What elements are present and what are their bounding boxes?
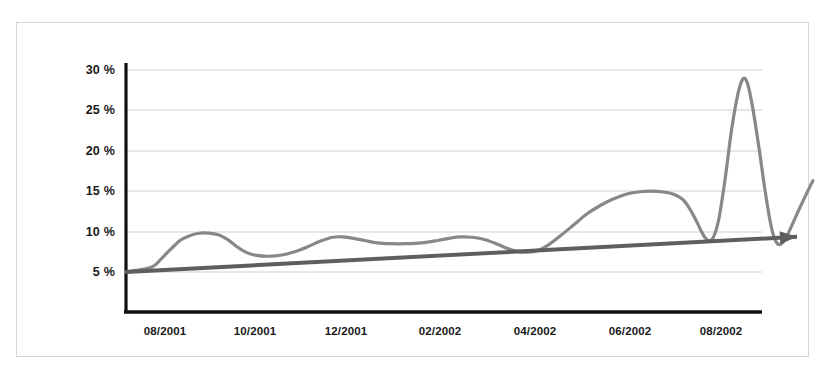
x-tick-label-04-2002: 04/2002	[490, 325, 580, 337]
y-tick-label-5: 5 %	[55, 265, 115, 279]
trend-line-path	[126, 237, 797, 272]
y-tick-label-20: 20 %	[55, 144, 115, 158]
x-tick-label-02-2002: 02/2002	[395, 325, 485, 337]
x-tick-label-08-2002: 08/2002	[676, 325, 766, 337]
chart-plot-area	[0, 0, 828, 378]
y-tick-label-30: 30 %	[55, 63, 115, 77]
x-tick-label-12-2001: 12/2001	[301, 325, 391, 337]
x-tick-label-06-2002: 06/2002	[585, 325, 675, 337]
axes	[124, 63, 762, 313]
y-tick-label-15: 15 %	[55, 184, 115, 198]
y-tick-label-10: 10 %	[55, 225, 115, 239]
x-tick-label-08-2001: 08/2001	[120, 325, 210, 337]
x-tick-label-10-2001: 10/2001	[210, 325, 300, 337]
y-tick-label-25: 25 %	[55, 103, 115, 117]
chart-figure: 30 % 25 % 20 % 15 % 10 % 5 % 08/2001 10/…	[0, 0, 828, 378]
